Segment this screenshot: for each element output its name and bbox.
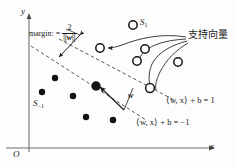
class-negative-label: S−1: [33, 99, 44, 109]
margin-label: margin: = 2 ||w||: [29, 24, 77, 42]
filled-dot: [39, 89, 45, 95]
hyperplane-negative-label: ⟨w, x⟩ + b = −1: [136, 118, 189, 127]
filled-dot: [52, 75, 58, 81]
margin-numerator: 2: [62, 24, 76, 32]
filled-dot-support-vector: [91, 81, 100, 90]
class-positive-subscript: 1: [145, 22, 148, 28]
filled-dot: [83, 114, 89, 120]
margin-denominator: ||w||: [62, 34, 76, 42]
leader-line-4: [156, 43, 188, 90]
x-axis-label: x: [210, 142, 214, 151]
hollow-circle: [141, 45, 149, 53]
support-vectors-annotation: 支持向量: [188, 30, 228, 40]
svm-margin-figure: y x O margin: = 2 ||w|| S1 S−1 支持向量 w ⟨w…: [0, 0, 237, 168]
hollow-circle: [174, 58, 182, 66]
negative-boundary-line: [31, 46, 146, 120]
w-vector-arrow: [100, 87, 124, 110]
hyperplane-positive-label: ⟨w, x⟩ + b = 1: [166, 96, 215, 105]
normal-vector-label: w: [128, 92, 133, 100]
class-positive-label: S1: [140, 18, 148, 28]
y-axis-label: y: [21, 7, 25, 16]
margin-text: margin: =: [29, 29, 60, 38]
filled-dot: [70, 93, 76, 99]
positive-boundary-line: [59, 39, 176, 101]
hollow-circle-support-1: [96, 44, 104, 52]
margin-fraction: 2 ||w||: [62, 24, 76, 42]
class-negative-subscript: −1: [38, 103, 44, 109]
hollow-circle-support-2: [133, 57, 141, 65]
origin-label: O: [13, 150, 20, 159]
class-negative-markers: [39, 75, 116, 123]
hollow-circle-support-3: [146, 84, 155, 93]
filled-dot: [110, 117, 116, 123]
hollow-circle-s1-label: [129, 21, 137, 29]
y-axis-arrowhead: [27, 13, 32, 19]
